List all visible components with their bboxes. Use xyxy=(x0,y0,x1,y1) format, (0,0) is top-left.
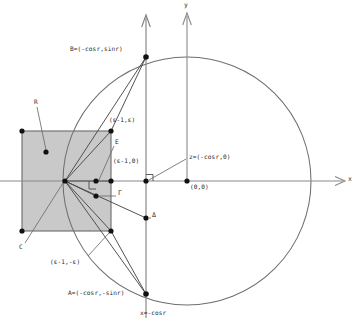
label-eps-mid: (ε-1,0) xyxy=(113,158,139,164)
label-eps-bottom: (ε-1,-ε) xyxy=(50,259,80,265)
chord-a-to-square-bottom-right xyxy=(111,231,146,294)
leader-line-z xyxy=(149,159,186,180)
label-eps-top: (ε-1,ε) xyxy=(109,117,135,123)
point-square-top-right xyxy=(108,128,113,133)
point-delta xyxy=(143,215,148,220)
point-a xyxy=(143,291,149,297)
geometry-diagram: B=(-cosr,sinr) A=(-cosr,-sinr) z=(-cosr,… xyxy=(0,0,358,331)
label-x-axis: x xyxy=(348,176,352,182)
diagram-canvas xyxy=(0,0,358,331)
label-point-gamma: Γ xyxy=(118,190,122,197)
label-y-axis: y xyxy=(184,2,188,8)
point-b xyxy=(143,54,149,60)
label-point-z: z=(-cosr,0) xyxy=(189,154,230,160)
point-eps-minus-one-zero xyxy=(108,178,113,183)
point-gamma xyxy=(93,193,98,198)
point-r-interior xyxy=(43,149,48,154)
label-point-a: A=(-cosr,-sinr) xyxy=(68,290,125,296)
label-point-delta: Δ xyxy=(152,212,156,219)
point-origin xyxy=(184,178,189,183)
point-square-bottom-right xyxy=(108,228,113,233)
label-point-c: C xyxy=(19,244,23,250)
point-hub-vertex xyxy=(62,178,67,183)
point-z xyxy=(143,178,148,183)
label-point-b: B=(-cosr,sinr) xyxy=(70,46,123,52)
leader-line-eps-bottom xyxy=(88,233,109,256)
point-square-bottom-left xyxy=(19,228,24,233)
label-origin: (0,0) xyxy=(190,184,209,190)
point-square-top-left xyxy=(19,128,24,133)
label-point-e: E xyxy=(115,139,119,145)
label-region-r: R xyxy=(34,99,38,105)
point-e xyxy=(93,178,98,183)
label-vertical-line: x=-cosr xyxy=(140,310,166,316)
